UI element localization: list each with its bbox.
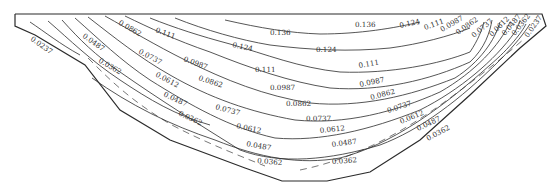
contour-label: 0.0737 xyxy=(137,47,164,67)
contour-label: 0.111 xyxy=(255,65,276,74)
contour-label: 0.0612 xyxy=(236,121,262,135)
contour-label: 0.0487 xyxy=(331,137,358,149)
contour-label: 0.0862 xyxy=(286,99,311,108)
contour-label: 0.0362 xyxy=(332,155,358,166)
contour-label: 0.0237 xyxy=(29,34,55,56)
contour-label: 0.124 xyxy=(232,40,254,53)
contour-label: 0.111 xyxy=(154,25,176,40)
contour-label: 0.0612 xyxy=(319,123,345,135)
contour-plot-svg: 0.0237 0.0487 0.0362 0.0862 0.0737 0.061… xyxy=(0,0,552,189)
contour-label: 0.0737 xyxy=(214,102,241,117)
contour-label: 0.0862 xyxy=(117,18,143,38)
contour-label: 0.0612 xyxy=(154,70,180,90)
contour-label: 0.0362 xyxy=(177,109,204,128)
contour-label: 0.124 xyxy=(316,45,337,54)
contour-label: 0.0487 xyxy=(246,139,273,152)
contour-labels: 0.0237 0.0487 0.0362 0.0862 0.0737 0.061… xyxy=(29,12,544,167)
contour-label: 0.136 xyxy=(270,28,291,37)
contour-label: 0.136 xyxy=(355,20,376,29)
contour-label: 0.0987 xyxy=(182,54,209,71)
contour-label: 0.0362 xyxy=(257,156,283,167)
contour-label: 0.111 xyxy=(358,58,380,70)
contour-diagram: 0.0237 0.0487 0.0362 0.0862 0.0737 0.061… xyxy=(0,0,552,189)
contour-label: 0.0737 xyxy=(306,114,332,123)
contour-label: 0.0487 xyxy=(162,90,189,109)
contour-label: 0.124 xyxy=(399,17,421,30)
contour-label: 0.0987 xyxy=(270,83,296,92)
